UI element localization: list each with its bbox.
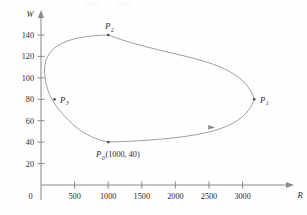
phase-plane-figure: 0 500 1000 1500 2000 2500 3000 20 40 60 …	[0, 0, 307, 215]
y-tick-labels: 20 40 60 80 100 120 140	[22, 31, 34, 169]
point-label-p2-base: P	[104, 21, 111, 31]
y-tick-label-60: 60	[26, 117, 34, 126]
point-label-p0-coord: (1000, 40)	[106, 150, 140, 159]
y-axis-arrowhead	[38, 10, 44, 18]
direction-arrow-icon	[208, 125, 214, 129]
point-marker-p3	[53, 98, 56, 101]
x-axis-arrowhead	[286, 182, 294, 188]
y-tick-label-140: 140	[22, 31, 34, 40]
y-axis-label: W	[26, 9, 34, 19]
point-marker-p0	[107, 141, 110, 144]
x-tick-label-1000: 1000	[100, 192, 116, 201]
x-origin-label: 0	[28, 192, 32, 201]
point-label-p1-base: P	[259, 95, 266, 105]
plot-canvas: 0 500 1000 1500 2000 2500 3000 20 40 60 …	[0, 0, 307, 215]
x-tick-label-1500: 1500	[134, 192, 150, 201]
point-label-p1: P 1	[259, 95, 269, 107]
point-label-p2: P 2	[104, 21, 114, 33]
point-labels: P 0 (1000, 40) P 1 P 2 P 3	[59, 21, 269, 161]
point-label-p2-sub: 2	[111, 27, 114, 33]
point-label-p3-sub: 3	[65, 100, 69, 106]
y-tick-label-20: 20	[26, 160, 34, 169]
x-axis-label: R	[296, 190, 303, 200]
x-tick-label-3000: 3000	[234, 192, 250, 201]
x-tick-label-2000: 2000	[167, 192, 183, 201]
point-label-p3-base: P	[59, 95, 66, 105]
x-tick-labels: 0 500 1000 1500 2000 2500 3000	[28, 192, 250, 201]
y-tick-label-120: 120	[22, 52, 34, 61]
y-tick-label-100: 100	[22, 74, 34, 83]
point-marker-p2	[107, 34, 110, 37]
y-tick-label-40: 40	[26, 138, 34, 147]
point-label-p3: P 3	[59, 95, 69, 107]
point-marker-p1	[253, 98, 256, 101]
trajectory-curve	[45, 35, 255, 142]
point-label-p1-sub: 1	[266, 100, 269, 106]
point-label-p0: P 0 (1000, 40)	[95, 149, 140, 161]
y-tick-label-80: 80	[26, 95, 34, 104]
x-tick-label-500: 500	[68, 192, 80, 201]
point-label-p0-base: P	[95, 149, 102, 159]
x-tick-label-2500: 2500	[201, 192, 217, 201]
